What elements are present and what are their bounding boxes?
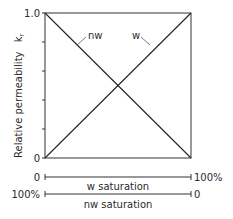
nw-saturation-label: nw saturation: [84, 199, 153, 210]
nw-scale-left-label: 100%: [11, 189, 40, 200]
nw-curve-label: nw: [88, 30, 103, 41]
y-axis-label: Relative permeability kr: [13, 34, 26, 158]
w-leader-line: [141, 37, 150, 45]
nw-leader-line: [77, 37, 86, 45]
w-scale-right-label: 100%: [194, 172, 223, 183]
relative-permeability-chart: 1.0 0 Relative permeability kr nw w 0 10…: [0, 0, 233, 219]
nw-saturation-scale: 100% 0 nw saturation: [11, 189, 200, 210]
w-saturation-label: w saturation: [87, 181, 149, 192]
w-curve-label: w: [132, 30, 140, 41]
nw-scale-right-label: 0: [194, 189, 200, 200]
w-scale-left-label: 0: [34, 172, 40, 183]
ytick-top-label: 1.0: [24, 8, 40, 19]
ytick-bottom-label: 0: [34, 153, 40, 164]
